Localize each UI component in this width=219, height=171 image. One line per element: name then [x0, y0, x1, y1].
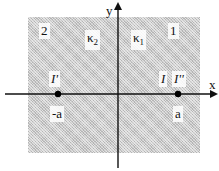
kappa-subscript: 2: [94, 37, 99, 47]
image-point-double-prime-label: I'': [172, 71, 186, 87]
point-minus-a: [55, 91, 61, 97]
source-point-label: I: [159, 71, 167, 87]
kappa-subscript: 1: [140, 37, 145, 47]
y-axis-label: y: [104, 3, 115, 19]
region-2-label: 2: [39, 23, 50, 39]
minus-a-label: -a: [50, 106, 64, 122]
kappa-1-label: κ1: [131, 30, 146, 50]
a-label: a: [173, 106, 183, 122]
x-axis-label: x: [207, 77, 218, 93]
coordinate-axes: [0, 0, 219, 171]
image-point-prime-label: I': [49, 71, 60, 87]
kappa-2-label: κ2: [85, 30, 100, 50]
half-space-diagram: y x 2 1 κ2 κ1 I' I I'' -a a: [0, 0, 219, 171]
point-a: [175, 91, 181, 97]
region-1-label: 1: [168, 23, 179, 39]
